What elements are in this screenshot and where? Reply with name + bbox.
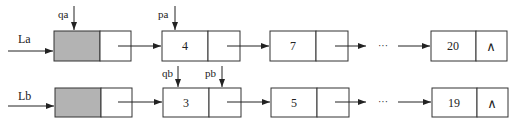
list-b: Lb qb pb 3 5 ···	[8, 66, 508, 117]
linked-lists-diagram: La qa 4 pa 7 ···	[0, 0, 518, 127]
list-a-label: La	[18, 32, 31, 46]
pointer-qa-label: qa	[58, 8, 69, 20]
list-a: La qa 4 pa 7 ···	[8, 6, 507, 61]
list-b-last-node: 19 ∧	[432, 88, 508, 117]
list-a-last-node: 20 ∧	[431, 31, 507, 61]
ellipsis: ···	[378, 40, 388, 51]
node-value: 7	[290, 39, 296, 53]
list-b-label: Lb	[18, 89, 31, 103]
pointer-pb-label: pb	[205, 67, 217, 79]
pointer-qb-label: qb	[162, 67, 174, 79]
null-symbol: ∧	[487, 96, 497, 111]
head-data-field	[55, 88, 101, 117]
null-symbol: ∧	[486, 39, 496, 54]
pointer-pa-label: pa	[158, 8, 169, 20]
head-data-field	[54, 31, 100, 61]
node-value: 5	[291, 96, 297, 110]
node-value: 19	[448, 96, 460, 110]
ellipsis: ···	[378, 96, 388, 107]
node-value: 3	[183, 96, 189, 110]
node-value: 20	[447, 39, 459, 53]
node-value: 4	[182, 39, 188, 53]
